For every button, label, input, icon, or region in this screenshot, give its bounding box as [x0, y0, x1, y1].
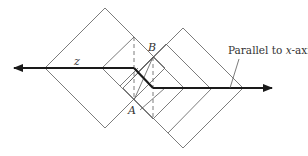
path-diagonal [134, 68, 153, 88]
annotation-leader [230, 59, 239, 88]
annotation-text: Parallel to x-axis [228, 44, 308, 56]
label-b: B [147, 41, 156, 54]
label-z: z [73, 55, 80, 68]
diagram-canvas: z A B Parallel to x-axis [0, 0, 308, 156]
label-a: A [127, 104, 136, 117]
